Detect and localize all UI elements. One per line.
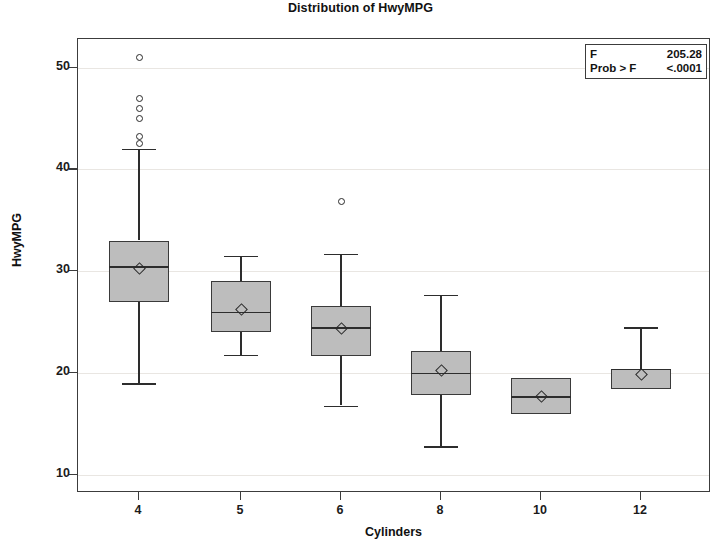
stats-row-2: Prob > F<.0001 xyxy=(590,61,702,75)
plot-area xyxy=(77,38,710,492)
x-axis-title: Cylinders xyxy=(77,525,710,539)
whisker-upper-cap xyxy=(624,327,658,329)
y-tick-label-50: 50 xyxy=(30,59,70,73)
x-tick-mark-4 xyxy=(138,492,139,500)
x-tick-label-5: 5 xyxy=(220,503,260,517)
y-tick-mark-10 xyxy=(69,474,77,475)
y-tick-mark-40 xyxy=(69,168,77,169)
stats-value: 205.28 xyxy=(667,47,702,61)
y-tick-mark-20 xyxy=(69,372,77,373)
stats-key: Prob > F xyxy=(590,61,636,75)
y-tick-label-40: 40 xyxy=(30,160,70,174)
y-tick-label-30: 30 xyxy=(30,262,70,276)
x-tick-mark-6 xyxy=(340,492,341,500)
stats-key: F xyxy=(590,47,597,61)
y-tick-label-10: 10 xyxy=(30,466,70,480)
x-tick-label-6: 6 xyxy=(320,503,360,517)
x-tick-label-12: 12 xyxy=(620,503,660,517)
plot-inner xyxy=(78,39,709,491)
x-tick-mark-10 xyxy=(540,492,541,500)
stats-value: <.0001 xyxy=(667,61,703,75)
x-tick-label-4: 4 xyxy=(118,503,158,517)
x-tick-label-8: 8 xyxy=(420,503,460,517)
chart-title: Distribution of HwyMPG xyxy=(0,1,721,15)
x-tick-mark-12 xyxy=(640,492,641,500)
y-tick-label-20: 20 xyxy=(30,364,70,378)
y-tick-mark-30 xyxy=(69,270,77,271)
stats-row-1: F205.28 xyxy=(590,47,702,61)
y-tick-mark-50 xyxy=(69,67,77,68)
whisker-upper-stem xyxy=(640,327,641,369)
x-tick-mark-8 xyxy=(440,492,441,500)
y-axis-title: HwyMPG xyxy=(10,170,24,310)
stats-annotation-box: F205.28Prob > F<.0001 xyxy=(585,44,707,79)
x-tick-label-10: 10 xyxy=(520,503,560,517)
boxplot-group-12[interactable] xyxy=(78,39,709,491)
boxplot-chart: Distribution of HwyMPG HwyMPG Cylinders … xyxy=(0,0,721,559)
x-tick-mark-5 xyxy=(240,492,241,500)
